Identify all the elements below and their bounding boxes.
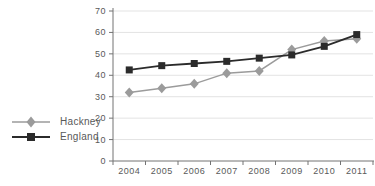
legend-label-england: England: [60, 131, 99, 142]
svg-text:2008: 2008: [248, 166, 270, 176]
svg-text:2009: 2009: [281, 166, 303, 176]
svg-text:0: 0: [100, 156, 106, 166]
svg-text:2010: 2010: [313, 166, 335, 176]
england-legend-swatch: [11, 130, 51, 144]
hackney-legend-swatch: [11, 115, 51, 129]
line-chart: 0102030405060702004200520062007200820092…: [0, 0, 375, 186]
legend-item-england: England: [11, 129, 101, 144]
svg-text:30: 30: [95, 92, 106, 102]
chart-legend: Hackney England: [11, 114, 101, 144]
svg-text:2011: 2011: [346, 166, 367, 176]
svg-text:2005: 2005: [151, 166, 173, 176]
chart-container: 0102030405060702004200520062007200820092…: [0, 0, 375, 186]
svg-text:2006: 2006: [183, 166, 205, 176]
square-marker-icon: [27, 133, 35, 141]
svg-text:70: 70: [95, 6, 106, 16]
svg-text:60: 60: [95, 27, 106, 37]
svg-text:2007: 2007: [216, 166, 238, 176]
legend-label-hackney: Hackney: [60, 116, 101, 127]
legend-item-hackney: Hackney: [11, 114, 101, 129]
svg-text:50: 50: [95, 49, 106, 59]
svg-text:2004: 2004: [118, 166, 140, 176]
svg-text:40: 40: [95, 70, 106, 80]
diamond-marker-icon: [27, 116, 36, 127]
